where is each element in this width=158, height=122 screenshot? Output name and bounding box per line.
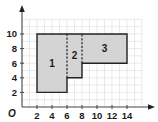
x-tick-label: 14: [122, 110, 133, 121]
y-tick-label: 6: [12, 58, 17, 69]
origin-label: O: [8, 108, 16, 119]
plot-canvas: 2468101214246810O 123: [0, 0, 158, 122]
region-label-2: 2: [72, 50, 78, 61]
x-tick-label: 10: [92, 110, 103, 121]
region-label-3: 3: [102, 43, 108, 54]
x-tick-label: 4: [49, 110, 55, 121]
y-tick-label: 2: [12, 87, 17, 98]
x-tick-label: 2: [34, 110, 39, 121]
x-tick-label: 12: [107, 110, 118, 121]
y-tick-label: 8: [12, 43, 17, 54]
y-tick-label: 10: [6, 28, 17, 39]
x-tick-label: 6: [64, 110, 69, 121]
x-tick-label: 8: [79, 110, 84, 121]
coordinate-grid-figure: 2468101214246810O 123: [0, 0, 158, 122]
x-axis-arrow-icon: [148, 104, 155, 110]
y-tick-label: 4: [12, 72, 18, 83]
region-label-1: 1: [49, 58, 55, 69]
y-axis-arrow-icon: [19, 5, 25, 12]
